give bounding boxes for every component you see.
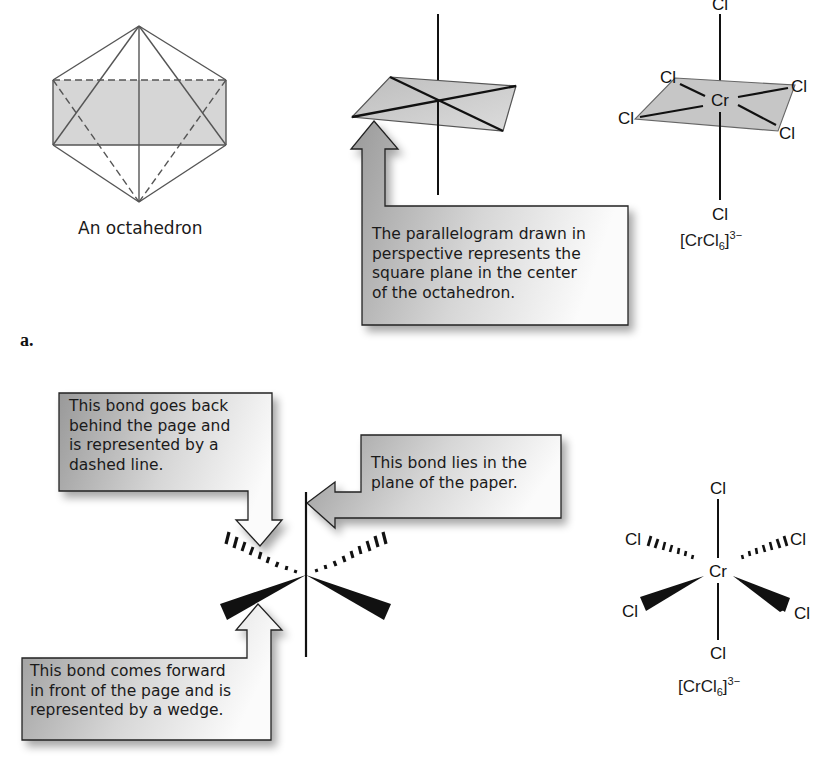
octahedron-figure <box>53 26 226 202</box>
atom-cl-front-left: Cl <box>618 110 634 127</box>
atom-cl-top: Cl <box>710 480 726 497</box>
atom-cl-front-right: Cl <box>794 605 810 622</box>
formula-base: [CrCl <box>680 231 719 250</box>
formula-bottom: [CrCl6]3− <box>678 675 740 698</box>
atom-cl-bottom: Cl <box>710 645 726 662</box>
formula-base: [CrCl <box>678 677 717 696</box>
atom-cl-front-right: Cl <box>779 125 795 142</box>
atom-cl-top: Cl <box>712 0 728 13</box>
octahedron-caption: An octahedron <box>78 218 202 238</box>
atom-cl-bottom: Cl <box>712 206 728 223</box>
plane-bond-callout-text: This bond lies in the plane of the paper… <box>371 454 527 493</box>
formula-top: [CrCl6]3− <box>680 229 742 252</box>
atom-cl-back-left: Cl <box>660 69 676 86</box>
dashed-bond-callout-text: This bond goes back behind the page and … <box>69 397 230 475</box>
atom-cl-back-right: Cl <box>790 531 806 548</box>
square-plane-callout-text: The parallelogram drawn in perspective r… <box>372 225 586 303</box>
formula-charge: 3− <box>730 229 743 241</box>
atom-cl-front-left: Cl <box>622 603 638 620</box>
atom-cr-center: Cr <box>709 563 727 580</box>
formula-charge: 3− <box>728 675 741 687</box>
atom-cl-back-right: Cl <box>791 78 807 95</box>
wedge-bond-callout-text: This bond comes forward in front of the … <box>30 662 231 721</box>
atom-cr-center: Cr <box>711 92 729 109</box>
diagram-canvas <box>0 0 822 769</box>
part-label-a: a. <box>20 330 34 351</box>
atom-cl-back-left: Cl <box>625 531 641 548</box>
